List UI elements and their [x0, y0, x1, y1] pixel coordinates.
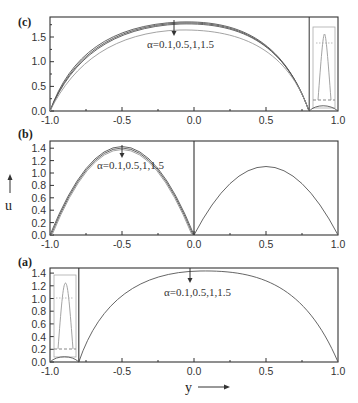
- panel-label-b: (b): [18, 127, 33, 141]
- plot-frame-a: [50, 268, 338, 362]
- x-axis-label: y: [185, 380, 192, 395]
- x-tick-label: -1.0: [41, 365, 59, 377]
- x-tick-label: 1.0: [331, 365, 346, 377]
- alpha-annotation-a: α=0.1,0.5,1,1.5: [164, 286, 231, 298]
- x-tick-label: 0.0: [187, 365, 202, 377]
- plot-frame-c: [50, 17, 338, 111]
- y-tick-label: 1.2: [31, 280, 46, 292]
- arrow-right-icon: [224, 385, 230, 390]
- y-tick-label: 1.4: [31, 267, 46, 279]
- y-tick-label: 0.8: [31, 305, 46, 317]
- arrow-down-icon: [172, 31, 177, 36]
- panel-a: (a) 0.0 0.2 0.4 0.6 0.8 1.0 1.2 1.4: [18, 255, 345, 395]
- arrow-up-icon: [8, 174, 13, 180]
- y-tick-label: 0.5: [31, 80, 46, 92]
- y-tick-label: 0.2: [31, 217, 46, 229]
- inset-c: [309, 27, 338, 111]
- y-axis-label: u: [5, 198, 12, 213]
- y-axis-title: u: [5, 174, 13, 213]
- y-tick-label: 1.0: [31, 55, 46, 67]
- y-tick-label: 1.4: [31, 142, 46, 154]
- series-a: [79, 271, 338, 362]
- panel-label-c: (c): [18, 15, 31, 29]
- x-tick-label: 0.5: [259, 238, 274, 250]
- x-axis-title: y: [185, 380, 230, 395]
- arrow-down-icon: [120, 153, 125, 158]
- figure-canvas: (c) 0.0 0.5 1.0 1.5 -1.0 -0.5: [0, 0, 358, 403]
- x-tick-label: 1.0: [331, 114, 346, 126]
- x-tick-label: -0.5: [113, 114, 131, 126]
- series-c: [50, 22, 309, 111]
- y-tick-label: 0.4: [31, 331, 46, 343]
- panel-c: (c) 0.0 0.5 1.0 1.5 -1.0 -0.5: [18, 15, 345, 126]
- x-tick-label: 0.0: [187, 238, 202, 250]
- x-tick-label: -1.0: [41, 114, 59, 126]
- x-tick-label: -1.0: [41, 238, 59, 250]
- inset-a: [50, 275, 79, 362]
- x-tick-label: 0.0: [187, 114, 202, 126]
- y-tick-label: 0.6: [31, 318, 46, 330]
- annotation-a: α=0.1,0.5,1,1.5: [164, 268, 231, 298]
- y-tick-label: 1.0: [31, 167, 46, 179]
- y-tick-label: 0.8: [31, 179, 46, 191]
- alpha-annotation-c: α=0.1,0.5,1,1.5: [147, 38, 214, 50]
- x-axis-a: -1.0 -0.5 0.0 0.5 1.0: [41, 358, 345, 377]
- x-axis-c: -1.0 -0.5 0.0 0.5 1.0: [41, 107, 345, 126]
- y-tick-label: 1.5: [31, 31, 46, 43]
- x-tick-label: -0.5: [113, 238, 131, 250]
- y-tick-label: 0.4: [31, 204, 46, 216]
- x-tick-label: 0.5: [259, 114, 274, 126]
- y-axis-b: 0.0 0.2 0.4 0.6 0.8 1.0 1.2 1.4: [31, 142, 54, 241]
- y-tick-label: 0.2: [31, 343, 46, 355]
- y-tick-label: 1.0: [31, 293, 46, 305]
- x-tick-label: 0.5: [259, 365, 274, 377]
- arrow-down-icon: [188, 278, 193, 283]
- alpha-annotation-b: α=0.1,0.5,1,1.5: [97, 159, 164, 171]
- x-tick-label: -0.5: [113, 365, 131, 377]
- y-tick-label: 1.2: [31, 155, 46, 167]
- x-tick-label: 1.0: [331, 238, 346, 250]
- y-axis-c: 0.0 0.5 1.0 1.5: [31, 25, 54, 117]
- panel-b: (b) 0.0 0.2 0.4 0.6 0.8 1.0 1.2 1.4 u: [5, 127, 345, 250]
- panel-label-a: (a): [18, 255, 32, 269]
- y-axis-a: 0.0 0.2 0.4 0.6 0.8 1.0 1.2 1.4: [31, 267, 54, 368]
- y-tick-label: 0.6: [31, 192, 46, 204]
